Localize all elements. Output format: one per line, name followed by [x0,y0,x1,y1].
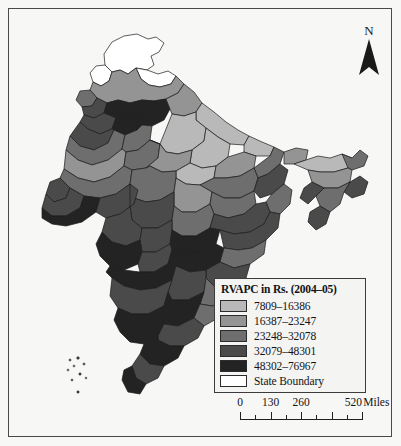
scale-tick-label: 130 [262,396,279,408]
legend-swatch [220,360,247,372]
legend-swatch [220,300,247,312]
legend-item-state-boundary[interactable]: State Boundary [220,373,360,388]
legend-swatch [220,330,247,342]
scale-tick [286,415,287,420]
map-figure: N RVAPC in Rs. (2004–05) 7809–16386 1638… [0,0,401,446]
legend-label: 32079–48301 [254,345,316,357]
scale-tick-label: 260 [292,396,309,408]
legend-label: State Boundary [254,375,324,387]
scale-tick [347,415,348,420]
legend-swatch [220,315,247,327]
legend-item[interactable]: 32079–48301 [220,343,360,358]
scale-tick-label: 520 [345,396,362,408]
scale-tick [301,412,302,420]
scale-tick [255,415,256,420]
legend-item[interactable]: 7809–16386 [220,298,360,313]
scale-tick [362,412,363,420]
north-arrow-icon [358,39,380,77]
scale-tick-label: 0 [237,396,243,408]
legend-item[interactable]: 16387–23247 [220,313,360,328]
scale-units-label: Miles [363,396,389,408]
scale-bar: 0 130 260 520 Miles [240,396,362,420]
scale-bar-ticks [240,411,362,420]
legend-label: 48302–76967 [254,360,316,372]
region-northeast[interactable] [284,148,368,230]
legend-title: RVAPC in Rs. (2004–05) [221,283,360,295]
scale-tick [271,412,272,420]
scale-tick [240,412,241,420]
region-lakshadweep-islands [67,357,87,393]
legend-item[interactable]: 48302–76967 [220,358,360,373]
scale-tick [316,415,317,420]
north-arrow: N [352,24,386,80]
legend-label: 7809–16386 [254,300,311,312]
region-south-peninsula[interactable] [106,264,230,394]
legend-label: 23248–32078 [254,330,316,342]
map-legend[interactable]: RVAPC in Rs. (2004–05) 7809–16386 16387–… [214,278,366,393]
legend-item[interactable]: 23248–32078 [220,328,360,343]
legend-swatch [220,345,247,357]
scale-tick [332,412,333,420]
legend-label: 16387–23247 [254,315,316,327]
scale-bar-labels: 0 130 260 520 Miles [240,396,362,410]
north-arrow-label: N [352,24,386,38]
legend-swatch [220,375,247,387]
